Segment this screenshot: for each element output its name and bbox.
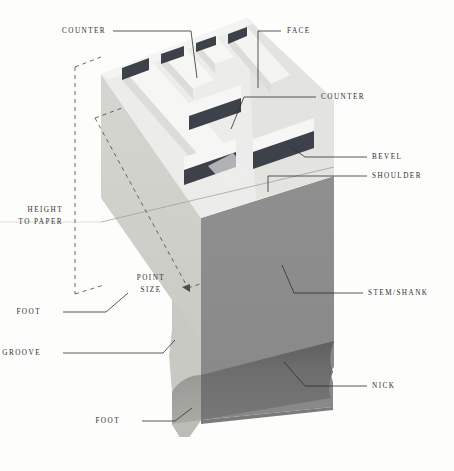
label-point-size-line2: SIZE <box>120 285 182 297</box>
label-foot-lower: FOOT <box>60 416 120 427</box>
label-height-to-paper: HEIGHT TO PAPER <box>0 205 63 228</box>
label-nick: NICK <box>372 381 395 392</box>
label-stem-shank: STEM/SHANK <box>368 288 428 299</box>
label-counter-top: COUNTER <box>62 26 106 37</box>
label-shoulder: SHOULDER <box>372 171 422 182</box>
label-height-to-paper-line2: TO PAPER <box>0 217 63 229</box>
label-point-size-line1: POINT <box>120 273 182 285</box>
label-bevel: BEVEL <box>372 152 402 163</box>
label-foot-upper: FOOT <box>0 307 41 318</box>
label-groove: GROOVE <box>0 348 41 359</box>
type-anatomy-figure <box>0 0 454 471</box>
label-height-to-paper-line1: HEIGHT <box>0 205 63 217</box>
label-point-size: POINT SIZE <box>120 273 182 296</box>
label-counter-mid: COUNTER <box>321 92 365 103</box>
label-face: FACE <box>287 26 311 37</box>
type-sort-illustration <box>0 0 454 471</box>
